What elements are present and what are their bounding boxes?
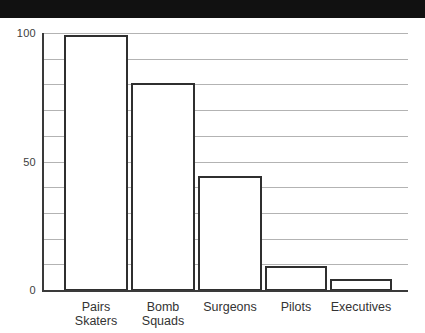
top-black-band <box>0 0 425 18</box>
bar-chart-figure: 050100 PairsSkatersBombSquadsSurgeonsPil… <box>0 18 425 333</box>
x-axis-category-labels: PairsSkatersBombSquadsSurgeonsPilotsExec… <box>0 18 425 333</box>
x-tick-label-executives: Executives <box>312 300 410 314</box>
x-label-line: Squads <box>113 314 213 328</box>
x-label-line: Executives <box>312 300 410 314</box>
